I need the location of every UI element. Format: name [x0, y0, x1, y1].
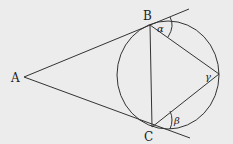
angle-alpha-arc [168, 17, 172, 37]
angle-gamma-label: γ [205, 71, 211, 82]
tangent-line-ab [24, 9, 189, 77]
tangent-line-ac [24, 77, 190, 138]
diagram-svg: A B C α β γ [0, 0, 233, 144]
point-c-label: C [144, 130, 153, 144]
angle-alpha-label: α [157, 23, 164, 34]
point-a-label: A [10, 71, 20, 85]
angle-beta-arc [170, 111, 172, 129]
point-b-label: B [143, 9, 152, 23]
geometry-diagram: A B C α β γ [0, 0, 233, 144]
chord-bc [150, 25, 152, 127]
angle-beta-label: β [173, 115, 180, 126]
